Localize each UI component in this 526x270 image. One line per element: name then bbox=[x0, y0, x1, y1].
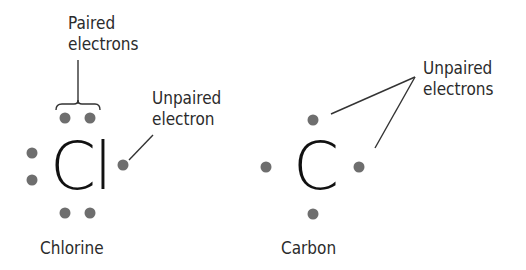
chlorine-electron-dot-left-1 bbox=[27, 148, 38, 159]
chlorine-unpaired-electron-dot bbox=[118, 160, 129, 171]
carbon-unpaired-electrons-label: Unpaired electrons bbox=[423, 58, 493, 100]
paired-electrons-bracket bbox=[56, 60, 100, 110]
carbon-symbol: C bbox=[293, 134, 337, 200]
chlorine-electron-dot-top-2 bbox=[85, 113, 96, 124]
chlorine-electron-dot-bottom-1 bbox=[60, 208, 71, 219]
carbon-electron-dot-bottom bbox=[308, 209, 319, 220]
carbon-unpaired-leader-line-top bbox=[331, 77, 415, 114]
chlorine-unpaired-leader-line bbox=[129, 135, 153, 160]
chlorine-name-label: Chlorine bbox=[40, 238, 104, 259]
paired-electrons-label: Paired electrons bbox=[68, 13, 138, 55]
chlorine-unpaired-electron-label: Unpaired electron bbox=[152, 88, 221, 130]
carbon-name-label: Carbon bbox=[281, 238, 336, 259]
carbon-unpaired-label-line2: electrons bbox=[423, 79, 493, 100]
chlorine-unpaired-label-line1: Unpaired bbox=[152, 88, 221, 109]
chlorine-electron-dot-bottom-2 bbox=[85, 208, 96, 219]
chlorine-unpaired-label-line2: electron bbox=[152, 109, 221, 130]
carbon-electron-dot-right bbox=[354, 162, 365, 173]
carbon-electron-dot-left bbox=[261, 162, 272, 173]
chlorine-electron-dot-left-2 bbox=[27, 175, 38, 186]
carbon-unpaired-label-line1: Unpaired bbox=[423, 58, 493, 79]
chlorine-electron-dot-top-1 bbox=[60, 113, 71, 124]
chlorine-symbol: Cl bbox=[50, 134, 110, 200]
carbon-electron-dot-top bbox=[308, 115, 319, 126]
paired-electrons-label-line2: electrons bbox=[68, 34, 138, 55]
carbon-unpaired-leader-line-right bbox=[375, 77, 415, 148]
paired-electrons-label-line1: Paired bbox=[68, 13, 138, 34]
